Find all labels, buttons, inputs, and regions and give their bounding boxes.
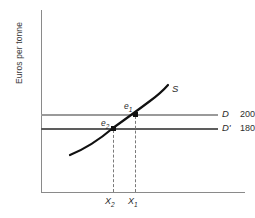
x-tick-label-x1-sub: 1 bbox=[134, 201, 138, 208]
equilibrium-label-e2: e2 bbox=[101, 118, 109, 130]
x-tick-label-x2-sub: 2 bbox=[111, 201, 115, 208]
drop-line-x1 bbox=[135, 116, 136, 192]
equilibrium-point-e2 bbox=[111, 126, 116, 131]
x-tick-label-x1: X1 bbox=[128, 196, 138, 208]
drop-line-x2 bbox=[113, 130, 114, 192]
x-tick-label-x2: X2 bbox=[105, 196, 115, 208]
equilibrium-label-e2-sub: 2 bbox=[106, 123, 110, 130]
equilibrium-label-e1-sub: 1 bbox=[129, 106, 133, 113]
equilibrium-label-e1: e1 bbox=[124, 101, 132, 113]
supply-demand-chart: Euros per tonne 200 180 D D' S e2 e1 X2 … bbox=[0, 0, 255, 218]
equilibrium-point-e1 bbox=[133, 112, 138, 117]
